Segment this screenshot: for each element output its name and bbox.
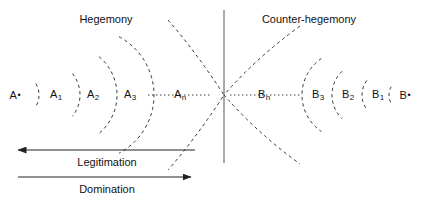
region-title-hegemony: Hegemony (79, 14, 132, 25)
region-title-counter-hegemony: Counter-hegemony (262, 14, 356, 25)
hegemony-diagram: Hegemony Counter-hegemony A•A1A2A3An BnB… (0, 0, 424, 204)
counter-hegemony-node-label-4: B1 (372, 89, 384, 102)
counter-hegemony-arc-5 (389, 87, 391, 103)
node-label-subscript: 2 (349, 92, 354, 101)
hegemony-node-label-3: A2 (87, 89, 99, 102)
diagram-canvas (0, 0, 424, 204)
counter-hegemony-arc-3 (332, 71, 342, 118)
hegemony-node-label-1: A• (9, 90, 20, 101)
node-label-subscript: n (181, 92, 186, 101)
counter-hegemony-node-label-2: B3 (312, 89, 324, 102)
node-label-bullet: • (17, 90, 21, 100)
hegemony-arc-2 (72, 74, 80, 117)
node-label-subscript: 3 (131, 92, 136, 101)
hegemony-arc-1 (36, 84, 39, 107)
node-label-subscript: 1 (57, 92, 62, 101)
hegemony-node-label-5: An (174, 89, 186, 102)
counter-hegemony-arc-4 (362, 81, 367, 110)
hegemony-arc-3 (99, 57, 117, 134)
counter-hegemony-node-label-5: B• (399, 90, 410, 101)
hegemony-node-label-2: A1 (50, 89, 62, 102)
domination-arrow-caption: Domination (79, 184, 135, 195)
node-label-subscript: n (265, 92, 270, 101)
counter-hegemony-node-label-3: B2 (342, 89, 354, 102)
hegemony-node-label-4: A3 (124, 89, 136, 102)
node-label-subscript: 3 (319, 92, 324, 101)
node-label-subscript: 2 (94, 92, 99, 101)
node-label-bullet: • (407, 90, 411, 100)
counter-hegemony-node-label-1: Bn (258, 89, 270, 102)
legitimation-arrow-caption: Legitimation (77, 157, 136, 168)
node-label-subscript: 1 (379, 92, 384, 101)
